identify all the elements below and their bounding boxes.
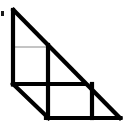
figure-container [0,0,127,133]
figure-background [0,0,127,133]
triangle-grid-diagram [0,0,127,133]
left-edge-tick-mark [1,11,4,16]
